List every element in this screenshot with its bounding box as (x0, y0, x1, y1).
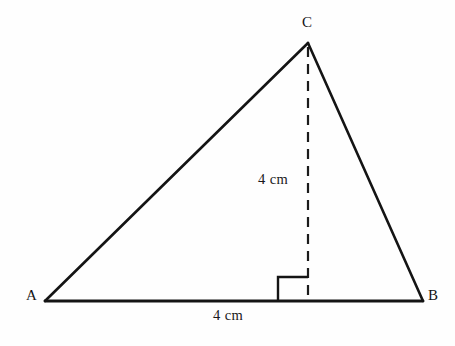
right-angle-square-icon (278, 277, 308, 301)
vertex-label-c: C (302, 15, 312, 30)
side-bc-line (308, 43, 423, 301)
vertex-label-b: B (428, 288, 438, 303)
altitude-measure-label: 4 cm (258, 172, 288, 187)
triangle-figure (0, 0, 455, 346)
triangle-diagram: A B C 4 cm 4 cm (0, 0, 455, 346)
vertex-label-a: A (26, 288, 37, 303)
base-measure-label: 4 cm (213, 308, 243, 323)
